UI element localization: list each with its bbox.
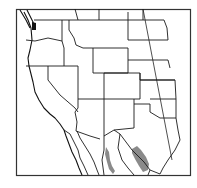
baja-east-coast <box>64 130 88 175</box>
western-range-patch <box>105 147 115 174</box>
range-map <box>0 0 197 188</box>
state-borders <box>26 9 180 175</box>
puget-sound-water <box>32 22 36 30</box>
